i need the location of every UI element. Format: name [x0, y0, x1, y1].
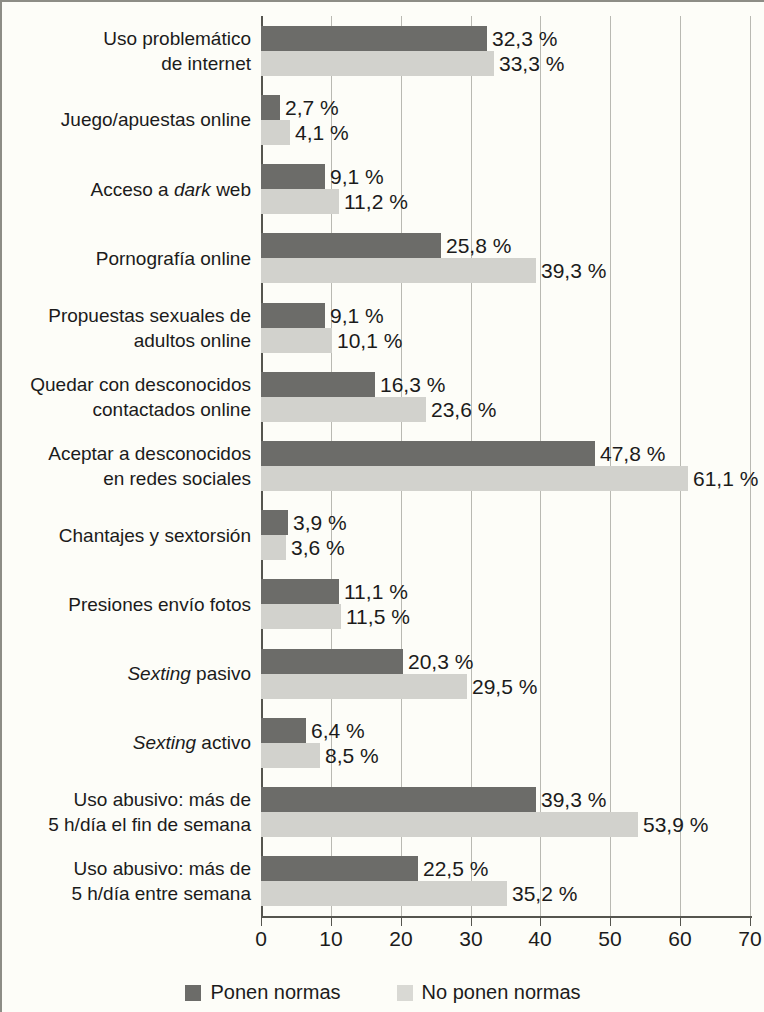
category-label: Sexting pasivo [127, 661, 251, 686]
category-label: Juego/apuestas online [61, 107, 251, 132]
bar-value-label: 32,3 % [492, 26, 557, 51]
x-tick-label-0: 0 [255, 926, 267, 952]
x-tick-30 [471, 916, 472, 926]
x-tick-20 [401, 916, 402, 926]
bar-value-label: 6,4 % [311, 718, 365, 743]
x-axis-line [261, 916, 752, 918]
x-tick-label-10: 10 [319, 926, 342, 952]
category-label: Aceptar a desconocidosen redes sociales [48, 441, 251, 491]
bar-ponen-normas [261, 372, 375, 397]
x-tick-50 [610, 916, 611, 926]
bar-value-label: 16,3 % [380, 372, 445, 397]
category-label: Acceso a dark web [90, 177, 251, 202]
bar-ponen-normas [261, 510, 288, 535]
bar-no-ponen-normas [261, 51, 494, 76]
bar-ponen-normas [261, 164, 325, 189]
bar-value-label: 10,1 % [337, 328, 402, 353]
x-tick-label-40: 40 [528, 926, 551, 952]
bar-value-label: 11,1 % [344, 579, 408, 604]
bar-no-ponen-normas [261, 189, 339, 214]
bar-no-ponen-normas [261, 120, 290, 145]
bar-ponen-normas [261, 856, 418, 881]
bar-value-label: 53,9 % [643, 812, 708, 837]
bar-value-label: 29,5 % [472, 674, 537, 699]
bar-ponen-normas [261, 649, 403, 674]
bar-value-label: 3,9 % [293, 510, 347, 535]
bar-value-label: 47,8 % [600, 441, 665, 466]
legend-label: No ponen normas [422, 981, 581, 1004]
category-label: Sexting activo [133, 730, 251, 755]
x-tick-70 [750, 916, 751, 926]
bar-ponen-normas [261, 579, 339, 604]
bar-ponen-normas [261, 718, 306, 743]
x-tick-10 [331, 916, 332, 926]
bar-no-ponen-normas [261, 466, 688, 491]
x-tick-label-20: 20 [389, 926, 412, 952]
bar-value-label: 35,2 % [512, 881, 577, 906]
category-label: Propuestas sexuales deadultos online [48, 303, 251, 353]
bar-value-label: 11,2 % [344, 189, 408, 214]
category-label: Uso abusivo: más de5 h/día entre semana [71, 856, 251, 906]
bar-value-label: 3,6 % [291, 535, 345, 560]
bar-no-ponen-normas [261, 881, 507, 906]
bar-no-ponen-normas [261, 743, 320, 768]
bar-value-label: 9,1 % [330, 164, 384, 189]
legend-swatch-icon [185, 985, 201, 1001]
bar-ponen-normas [261, 787, 536, 812]
category-label: Uso abusivo: más de5 h/día el fin de sem… [48, 787, 251, 837]
bar-no-ponen-normas [261, 535, 286, 560]
bar-value-label: 8,5 % [325, 743, 379, 768]
bar-value-label: 4,1 % [295, 120, 349, 145]
x-tick-0 [261, 916, 262, 926]
category-label: Chantajes y sextorsión [59, 523, 251, 548]
bar-ponen-normas [261, 303, 325, 328]
chart-legend: Ponen normasNo ponen normas [2, 981, 764, 1004]
bar-value-label: 20,3 % [408, 649, 473, 674]
category-label: Uso problemáticode internet [103, 26, 251, 76]
legend-label: Ponen normas [210, 981, 340, 1004]
bar-value-label: 9,1 % [330, 303, 384, 328]
category-label: Presiones envío fotos [68, 592, 251, 617]
bar-no-ponen-normas [261, 674, 467, 699]
bar-value-label: 39,3 % [541, 787, 606, 812]
bar-no-ponen-normas [261, 258, 536, 283]
bar-no-ponen-normas [261, 604, 341, 629]
category-label: Pornografía online [96, 246, 251, 271]
chart-figure: 010203040506070 Uso problemáticode inter… [0, 0, 764, 1012]
bar-ponen-normas [261, 95, 280, 120]
bar-ponen-normas [261, 233, 441, 258]
bar-value-label: 11,5 % [346, 604, 410, 629]
category-label: Quedar con desconocidoscontactados onlin… [30, 372, 251, 422]
bar-ponen-normas [261, 441, 595, 466]
bar-value-label: 33,3 % [499, 51, 564, 76]
x-tick-60 [680, 916, 681, 926]
bar-value-label: 61,1 % [693, 466, 758, 491]
bar-value-label: 39,3 % [541, 258, 606, 283]
bar-value-label: 22,5 % [423, 856, 488, 881]
x-tick-label-70: 70 [738, 926, 761, 952]
bar-value-label: 23,6 % [431, 397, 496, 422]
bar-no-ponen-normas [261, 328, 332, 353]
legend-swatch-icon [397, 985, 413, 1001]
bar-value-label: 25,8 % [446, 233, 511, 258]
x-tick-label-30: 30 [459, 926, 482, 952]
bar-value-label: 2,7 % [285, 95, 339, 120]
bar-no-ponen-normas [261, 397, 426, 422]
x-tick-40 [540, 916, 541, 926]
x-tick-label-50: 50 [598, 926, 621, 952]
legend-item-ponen-normas: Ponen normas [185, 981, 340, 1004]
bar-ponen-normas [261, 26, 487, 51]
bar-no-ponen-normas [261, 812, 638, 837]
legend-item-no-ponen-normas: No ponen normas [397, 981, 581, 1004]
x-tick-label-60: 60 [668, 926, 691, 952]
